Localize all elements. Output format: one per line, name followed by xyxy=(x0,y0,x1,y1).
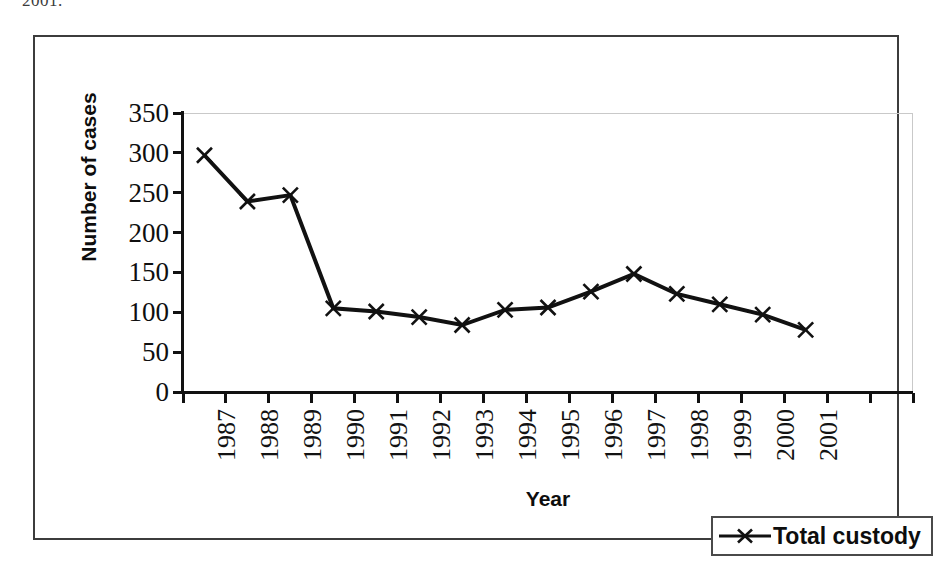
x-axis-tick xyxy=(740,393,743,403)
series-line xyxy=(204,155,805,330)
data-point-marker xyxy=(197,148,212,163)
y-axis-tick xyxy=(173,351,182,354)
x-axis-tick-label: 1989 xyxy=(300,409,326,461)
x-axis-tick xyxy=(525,393,528,403)
y-axis-tick-label: 50 xyxy=(142,339,169,366)
x-axis-tick xyxy=(869,393,872,403)
y-axis-tick-label: 200 xyxy=(129,219,170,246)
legend-label-total-custody: Total custody xyxy=(773,523,921,550)
x-axis-tick xyxy=(654,393,657,403)
x-axis-tick xyxy=(611,393,614,403)
x-axis-tick xyxy=(912,393,915,403)
y-axis-tick xyxy=(173,112,182,115)
x-axis-tick xyxy=(353,393,356,403)
x-axis-tick-label: 1997 xyxy=(644,409,670,461)
x-axis-tick xyxy=(182,393,185,403)
legend-line-marker-icon xyxy=(719,525,771,547)
x-axis-tick xyxy=(396,393,399,403)
y-axis-tick xyxy=(173,151,182,154)
x-axis-tick xyxy=(482,393,485,403)
x-axis-tick-label: 1994 xyxy=(515,409,541,461)
x-axis-tick xyxy=(439,393,442,403)
x-axis-tick-label: 1991 xyxy=(386,409,412,461)
y-axis-tick-label: 350 xyxy=(129,100,170,127)
x-axis-tick-label: 2001 xyxy=(816,409,842,461)
x-axis-tick-label: 1988 xyxy=(257,409,283,461)
y-axis-tick-labels: 050100150200250300350 xyxy=(95,37,169,538)
x-axis-tick-label: 1998 xyxy=(687,409,713,461)
x-axis-tick-label: 1992 xyxy=(429,409,455,461)
y-axis-tick xyxy=(173,231,182,234)
y-axis-tick-label: 300 xyxy=(129,139,170,166)
x-axis-tick xyxy=(568,393,571,403)
x-axis-tick-label: 1987 xyxy=(214,409,240,461)
y-axis-tick xyxy=(173,191,182,194)
chart-figure-frame: 050100150200250300350 198719881989199019… xyxy=(33,35,899,540)
x-axis-tick xyxy=(697,393,700,403)
y-axis-tick-label: 250 xyxy=(129,179,170,206)
x-axis-tick-label: 1990 xyxy=(343,409,369,461)
x-axis-tick xyxy=(826,393,829,403)
x-axis-tick xyxy=(783,393,786,403)
x-axis-tick-label: 1999 xyxy=(730,409,756,461)
x-axis-tick xyxy=(267,393,270,403)
y-axis-tick-label: 0 xyxy=(156,379,170,406)
y-axis-tick-label: 100 xyxy=(129,299,170,326)
y-axis-tick xyxy=(173,271,182,274)
y-axis-title: Number of cases xyxy=(77,37,101,317)
x-axis-tick-label: 1993 xyxy=(472,409,498,461)
y-axis-tick-label: 150 xyxy=(129,259,170,286)
top-text-fragment: 2001. xyxy=(22,0,63,11)
chart-legend: Total custody xyxy=(711,516,933,556)
y-axis-tick xyxy=(173,311,182,314)
x-axis-tick-label: 1996 xyxy=(601,409,627,461)
x-axis-tick-label: 2000 xyxy=(773,409,799,461)
x-axis-tick xyxy=(310,393,313,403)
data-series-total-custody xyxy=(183,113,913,392)
x-axis-tick-label: 1995 xyxy=(558,409,584,461)
x-axis-tick xyxy=(224,393,227,403)
x-axis-title: Year xyxy=(183,487,913,511)
